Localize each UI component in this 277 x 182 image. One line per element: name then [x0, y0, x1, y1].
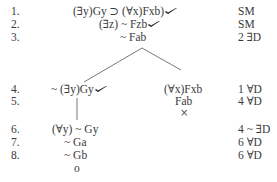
- justification-line-8: 6 ∀D: [238, 150, 262, 162]
- justification-line-4: 1 ∀D: [238, 84, 262, 96]
- branch-line-right: [142, 48, 181, 70]
- line-number-3: 3.: [11, 32, 20, 44]
- formula-line-8: ~ Gb: [64, 150, 87, 162]
- formula-line-4-right: (∀x)Fxb: [164, 84, 202, 96]
- formula-text: (∃y)Gy ⊃ (∀x)Fxb): [73, 5, 164, 17]
- closed-branch-marker: ×: [180, 108, 188, 118]
- justification-line-5: 4 ∀D: [238, 96, 262, 108]
- formula-line-2: (∃z) ~ Fzb: [99, 19, 160, 31]
- justification-line-7: 6 ∀D: [238, 137, 262, 149]
- checkmark-icon: [95, 86, 107, 92]
- justification-line-3: 2 ∃D: [238, 32, 261, 44]
- justification-line-2: SM: [238, 19, 255, 31]
- line-number-6: 6.: [11, 124, 20, 136]
- line-number-7: 7.: [11, 137, 20, 149]
- formula-text: ~ (∃y)Gy: [51, 83, 94, 95]
- justification-line-1: SM: [238, 6, 255, 18]
- line-number-2: 2.: [11, 19, 20, 31]
- justification-line-6: 4 ~ ∃D: [238, 124, 270, 136]
- checkmark-icon: [165, 8, 177, 14]
- formula-line-4-left: ~ (∃y)Gy: [51, 84, 107, 96]
- formula-line-7: ~ Ga: [64, 137, 87, 149]
- line-number-8: 8.: [11, 150, 20, 162]
- open-branch-marker: o: [74, 163, 80, 175]
- checkmark-icon: [148, 21, 160, 27]
- line-number-5: 5.: [11, 96, 20, 108]
- formula-line-3: ~ Fab: [120, 32, 146, 44]
- line-number-1: 1.: [11, 6, 20, 18]
- formula-line-5-right: Fab: [175, 96, 192, 108]
- formula-line-6: (∀y) ~ Gy: [52, 124, 98, 136]
- branch-line-left: [84, 48, 142, 82]
- formula-text: (∃z) ~ Fzb: [99, 18, 147, 30]
- formula-line-1: (∃y)Gy ⊃ (∀x)Fxb): [73, 6, 177, 18]
- line-number-4: 4.: [11, 84, 20, 96]
